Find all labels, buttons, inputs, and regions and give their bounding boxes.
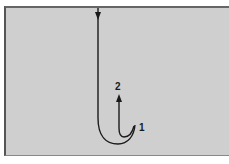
- label-step-1: 1: [139, 123, 145, 133]
- outer-stroke-path: [95, 8, 135, 144]
- down-arrow-icon: [95, 12, 101, 20]
- label-step-2: 2: [115, 82, 121, 92]
- inner-stroke-path: [116, 94, 134, 137]
- up-arrow-icon: [116, 94, 122, 102]
